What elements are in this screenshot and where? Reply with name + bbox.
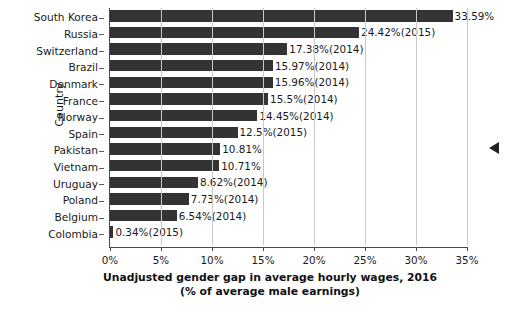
y-axis-tick (99, 18, 104, 19)
gridline (467, 8, 468, 245)
bar-row: 12.5%(2015) (110, 127, 467, 139)
y-axis-tick (99, 34, 104, 35)
y-axis-category-label: Uruguay (53, 179, 98, 190)
bar-row: 17.38%(2014) (110, 43, 467, 55)
x-axis-tick-label: 5% (153, 254, 169, 266)
x-axis-tick-label: 10% (200, 254, 223, 266)
bar-value-label: 15.5%(2014) (268, 93, 338, 105)
gridline (365, 8, 366, 245)
y-axis-tick (99, 68, 104, 69)
gridline (161, 8, 162, 245)
bar-row: 10.71% (110, 160, 467, 172)
x-axis-tick-label: 30% (404, 254, 427, 266)
y-axis-tick (99, 118, 104, 119)
bar-value-label: 7.73%(2014) (189, 193, 259, 205)
x-axis-tick-mark (212, 247, 213, 251)
gridline (263, 8, 264, 245)
bar-row: 33.59% (110, 10, 467, 22)
x-axis-title-line2: (% of average male earnings) (70, 285, 470, 299)
bar-value-label: 14.45%(2014) (257, 110, 333, 122)
bar-row: 15.97%(2014) (110, 60, 467, 72)
y-axis-tick (99, 84, 104, 85)
bar-value-label: 15.96%(2014) (273, 76, 349, 88)
bar-value-label: 0.34%(2015) (113, 226, 183, 238)
x-axis-title: Unadjusted gender gap in average hourly … (70, 271, 470, 298)
bar (110, 110, 257, 122)
bar-value-label: 10.71% (219, 160, 261, 172)
bar-value-label: 15.97%(2014) (273, 60, 349, 72)
x-axis-tick-label: 25% (353, 254, 376, 266)
y-axis-category-label: Switzerland (36, 46, 98, 57)
bar (110, 60, 273, 72)
bar (110, 210, 177, 222)
y-axis-tick (99, 168, 104, 169)
y-axis-category-label: France (63, 96, 98, 107)
bar-row: 0.34%(2015) (110, 226, 467, 238)
bar-chart: Country South KoreaRussiaSwitzerlandBraz… (0, 0, 509, 316)
bar-value-label: 12.5%(2015) (238, 126, 308, 138)
bar (110, 143, 220, 155)
y-axis-category-label: Pakistan (54, 145, 98, 156)
bar-value-label: 33.59% (453, 10, 495, 22)
y-axis-category-label: Spain (68, 129, 98, 140)
x-axis-tick-mark (467, 247, 468, 251)
bar (110, 27, 359, 39)
y-axis-category-label: Russia (64, 29, 98, 40)
bar (110, 193, 189, 205)
bar-value-label: 17.38%(2014) (287, 43, 363, 55)
x-axis-tick-mark (314, 247, 315, 251)
x-axis-tick-mark (161, 247, 162, 251)
x-axis-tick-label: 15% (251, 254, 274, 266)
x-axis-tick-mark (110, 247, 111, 251)
gridline (416, 8, 417, 245)
bar-row: 14.45%(2014) (110, 110, 467, 122)
y-axis-category-label: Denmark (49, 79, 98, 90)
bar (110, 77, 273, 89)
y-axis-tick (99, 151, 104, 152)
x-axis-line (110, 247, 468, 248)
y-axis-category-label: Brazil (68, 62, 98, 73)
y-axis-category-labels: South KoreaRussiaSwitzerlandBrazilDenmar… (0, 10, 104, 243)
bar (110, 177, 198, 189)
bar-row: 15.5%(2014) (110, 93, 467, 105)
bar (110, 127, 238, 139)
plot-area: 33.59%24.42%(2015)17.38%(2014)15.97%(201… (110, 8, 467, 245)
y-axis-tick (99, 234, 104, 235)
bar-row: 24.42%(2015) (110, 27, 467, 39)
gridline (314, 8, 315, 245)
x-axis-tick-mark (263, 247, 264, 251)
bar-row: 10.81% (110, 143, 467, 155)
y-axis-tick (99, 51, 104, 52)
bar-row: 6.54%(2014) (110, 210, 467, 222)
bar (110, 93, 268, 105)
bar-value-label: 10.81% (220, 143, 262, 155)
bar-row: 8.62%(2014) (110, 177, 467, 189)
bar-row: 15.96%(2014) (110, 77, 467, 89)
x-axis-title-line1: Unadjusted gender gap in average hourly … (103, 271, 437, 284)
x-axis-tick-label: 20% (302, 254, 325, 266)
bar-row: 7.73%(2014) (110, 193, 467, 205)
x-axis-tick-label: 35% (455, 254, 478, 266)
gridline (212, 8, 213, 245)
bar (110, 43, 287, 55)
y-axis-category-label: Vietnam (54, 162, 98, 173)
left-pointing-triangle-icon (489, 142, 499, 154)
y-axis-category-label: Norway (58, 112, 98, 123)
y-axis-category-label: Colombia (48, 229, 98, 240)
y-axis-category-label: Belgium (55, 212, 98, 223)
y-axis-tick (99, 101, 104, 102)
y-axis-tick (99, 218, 104, 219)
bar-value-label: 24.42%(2015) (359, 26, 435, 38)
y-axis-tick (99, 134, 104, 135)
x-axis-tick-mark (416, 247, 417, 251)
bar-value-label: 8.62%(2014) (198, 176, 268, 188)
x-axis-tick-label: 0% (102, 254, 118, 266)
y-axis-category-label: Poland (63, 195, 98, 206)
y-axis-category-label: South Korea (34, 12, 98, 23)
y-axis-tick (99, 201, 104, 202)
x-axis-tick-mark (365, 247, 366, 251)
y-axis-tick (99, 184, 104, 185)
bar (110, 160, 219, 172)
